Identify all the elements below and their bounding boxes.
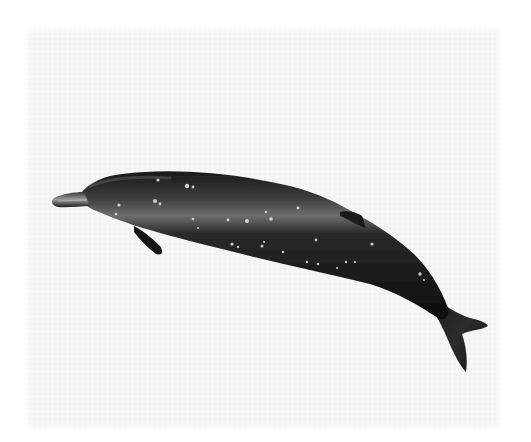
whale-body bbox=[80, 171, 448, 319]
beaked-whale-illustration bbox=[0, 0, 531, 442]
beak bbox=[52, 192, 90, 207]
